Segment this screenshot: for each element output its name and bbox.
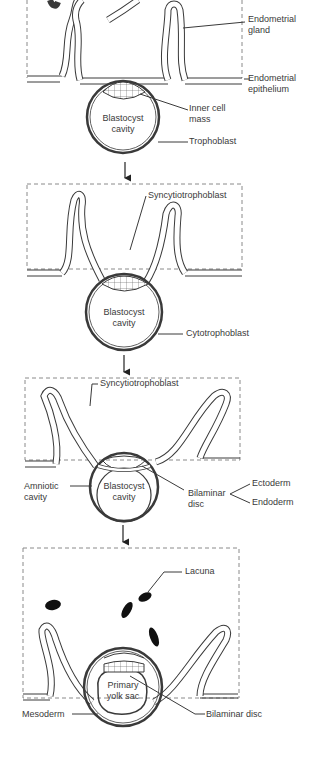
label-primary-yolk-sac: Primary yolk sac: [100, 680, 146, 702]
label-line: gland: [248, 25, 296, 36]
label-line: cavity: [100, 318, 148, 329]
label-line: Blastocyst: [100, 481, 148, 492]
label-line: Blastocyst: [100, 113, 146, 124]
label-lacuna: Lacuna: [185, 566, 215, 577]
label-line: yolk sac: [100, 691, 146, 702]
label-line: Endometrial: [248, 73, 296, 84]
label-blastocyst-cavity: Blastocyst cavity: [100, 113, 146, 135]
label-line: cavity: [24, 492, 59, 503]
lacuna-icon: [44, 590, 161, 647]
label-line: Primary: [100, 680, 146, 691]
label-line: Amniotic: [24, 481, 59, 492]
label-line: disc: [188, 499, 226, 510]
label-line: epithelium: [248, 84, 296, 95]
label-amniotic-cavity: Amniotic cavity: [24, 481, 59, 503]
label-endometrial-epithelium: Endometrial epithelium: [248, 73, 296, 95]
label-trophoblast: Trophoblast: [189, 136, 236, 147]
label-ectoderm: Ectoderm: [252, 478, 291, 489]
label-line: Endometrial: [248, 14, 296, 25]
label-bilaminar-disc: Bilaminar disc: [188, 488, 226, 510]
label-cytotrophoblast: Cytotrophoblast: [186, 328, 249, 339]
label-inner-cell-mass: Inner cell mass: [189, 103, 226, 125]
label-line: cavity: [100, 124, 146, 135]
label-syncytiotrophoblast: Syncytiotrophoblast: [148, 190, 227, 201]
label-line: Bilaminar: [188, 488, 226, 499]
label-bilaminar-disc: Bilaminar disc: [206, 709, 262, 720]
label-endometrial-gland: Endometrial gland: [248, 14, 296, 36]
label-line: mass: [189, 114, 226, 125]
label-line: Blastocyst: [100, 307, 148, 318]
label-line: cavity: [100, 492, 148, 503]
label-blastocyst-cavity: Blastocyst cavity: [100, 307, 148, 329]
label-syncytiotrophoblast: Syncytiotrophoblast: [100, 378, 179, 389]
label-mesoderm: Mesoderm: [22, 709, 65, 720]
label-blastocyst-cavity: Blastocyst cavity: [100, 481, 148, 503]
label-endoderm: Endoderm: [252, 497, 294, 508]
label-line: Inner cell: [189, 103, 226, 114]
